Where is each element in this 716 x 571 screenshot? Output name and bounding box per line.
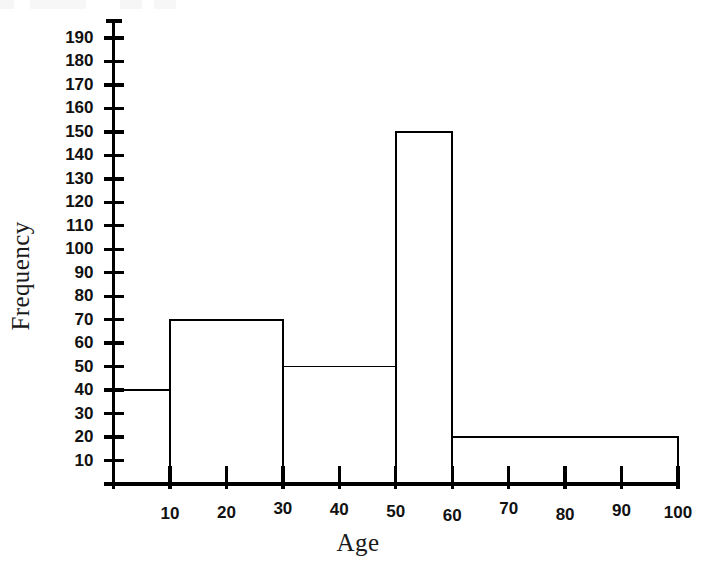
y-axis-tick-label: 120	[48, 192, 94, 212]
y-axis-tick-label: 60	[48, 333, 94, 353]
y-axis-tick-label: 50	[48, 357, 94, 377]
histogram-bars	[114, 132, 679, 484]
x-axis-tick-label: 10	[150, 504, 190, 524]
x-axis-tick-label: 30	[263, 499, 303, 519]
x-axis-tick-label: 40	[319, 500, 359, 520]
y-axis-tick-label: 150	[48, 122, 94, 142]
histogram-bar	[170, 320, 283, 484]
y-axis-tick-label: 80	[48, 286, 94, 306]
y-axis-tick-label: 30	[48, 404, 94, 424]
x-axis-tick-label: 70	[489, 499, 529, 519]
plot-area	[0, 0, 716, 571]
y-axis-tick-label: 190	[48, 28, 94, 48]
x-axis-tick-label: 20	[206, 503, 246, 523]
y-axis-tick-label: 40	[48, 380, 94, 400]
y-axis-tick-label: 10	[48, 451, 94, 471]
y-axis-title: Frequency	[7, 196, 35, 356]
y-axis-tick-label: 160	[48, 98, 94, 118]
y-axis-tick-label: 70	[48, 310, 94, 330]
y-axis-tick-label: 180	[48, 51, 94, 71]
x-axis-title: Age	[0, 529, 716, 557]
y-axis-tick-label: 90	[48, 263, 94, 283]
y-axis-tick-label: 20	[48, 427, 94, 447]
x-axis-tick-label: 50	[376, 502, 416, 522]
y-axis-tick-label: 170	[48, 75, 94, 95]
x-axis-tick-label: 60	[432, 506, 472, 526]
y-axis-tick-label: 130	[48, 169, 94, 189]
y-axis-tick-label: 110	[48, 216, 94, 236]
x-axis-tick-label: 80	[545, 505, 585, 525]
x-axis-tick-label: 100	[658, 503, 698, 523]
histogram-bar	[396, 132, 452, 484]
x-axis-tick-label: 90	[602, 501, 642, 521]
y-axis-tick-label: 100	[48, 239, 94, 259]
histogram-figure: 1020304050607080901001101201301401501601…	[0, 0, 716, 571]
y-axis-tick-label: 140	[48, 145, 94, 165]
